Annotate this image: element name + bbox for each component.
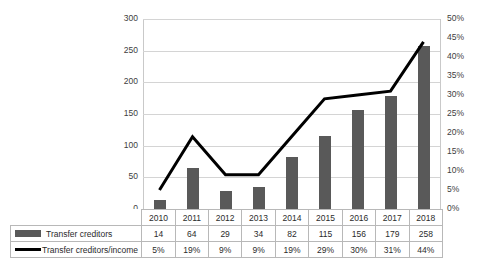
table-data-cell: 156	[342, 226, 375, 242]
table-data-cell: 5%	[142, 242, 175, 258]
chart-container: 050100150200250300 0%5%10%15%20%25%30%35…	[0, 0, 479, 272]
table-year-header-cell: 2017	[376, 210, 409, 226]
legend-line-swatch-icon	[15, 248, 41, 251]
data-table: 201020112012201320142015201620172018Tran…	[10, 209, 443, 258]
table-data-cell: 19%	[275, 242, 308, 258]
left-axis-tick-label: 50	[104, 172, 138, 181]
right-axis-tick-label: 25%	[447, 109, 477, 118]
table-year-header-cell: 2012	[208, 210, 241, 226]
right-axis-tick-label: 15%	[447, 147, 477, 156]
table-year-header-cell: 2010	[142, 210, 175, 226]
table-year-header-cell: 2015	[309, 210, 342, 226]
table-data-cell: 64	[175, 226, 208, 242]
table-data-cell: 179	[376, 226, 409, 242]
table-legend-cell: Transfer creditors	[11, 226, 142, 242]
table-row: Transfer creditors1464293482115156179258	[11, 226, 443, 242]
table-corner-cell	[11, 210, 142, 226]
line-path	[160, 42, 424, 190]
table-data-cell: 9%	[242, 242, 275, 258]
table-data-cell: 14	[142, 226, 175, 242]
table-header-row: 201020112012201320142015201620172018	[11, 210, 443, 226]
table-data-cell: 29	[208, 226, 241, 242]
right-axis-tick-label: 45%	[447, 33, 477, 42]
table-data-cell: 29%	[309, 242, 342, 258]
right-axis-tick-label: 30%	[447, 90, 477, 99]
table-year-header-cell: 2018	[409, 210, 442, 226]
right-axis-line	[440, 19, 441, 210]
table-legend-cell: Transfer creditors/income	[11, 242, 142, 258]
left-axis-tick-label: 300	[104, 14, 138, 23]
left-axis-tick-label: 150	[104, 109, 138, 118]
table-data-cell: 44%	[409, 242, 442, 258]
table-data-cell: 82	[275, 226, 308, 242]
right-axis-tick-label: 50%	[447, 14, 477, 23]
right-axis-tick-label: 35%	[447, 71, 477, 80]
table-year-header-cell: 2016	[342, 210, 375, 226]
table-row: Transfer creditors/income5%19%9%9%19%29%…	[11, 242, 443, 258]
legend-label: Transfer creditors/income	[42, 245, 138, 255]
table-data-cell: 19%	[175, 242, 208, 258]
right-axis-tick-label: 0%	[447, 204, 477, 213]
table-data-cell: 115	[309, 226, 342, 242]
table-data-cell: 34	[242, 226, 275, 242]
table-data-cell: 258	[409, 226, 442, 242]
legend-label: Transfer creditors	[46, 229, 112, 239]
left-axis-tick-label: 100	[104, 141, 138, 150]
table-data-cell: 31%	[376, 242, 409, 258]
right-axis-tick-label: 20%	[447, 128, 477, 137]
right-axis-tick-label: 10%	[447, 166, 477, 175]
left-axis-tick-label: 250	[104, 46, 138, 55]
legend-bar-swatch-icon	[15, 230, 41, 237]
right-axis-tick-label: 5%	[447, 185, 477, 194]
plot-area	[143, 19, 440, 209]
line-series-transfer-creditors-income	[143, 19, 440, 209]
table-year-header-cell: 2011	[175, 210, 208, 226]
table-year-header-cell: 2014	[275, 210, 308, 226]
right-axis-tick-label: 40%	[447, 52, 477, 61]
table-data-cell: 30%	[342, 242, 375, 258]
table-data-cell: 9%	[208, 242, 241, 258]
left-axis-tick-label: 200	[104, 77, 138, 86]
table-year-header-cell: 2013	[242, 210, 275, 226]
